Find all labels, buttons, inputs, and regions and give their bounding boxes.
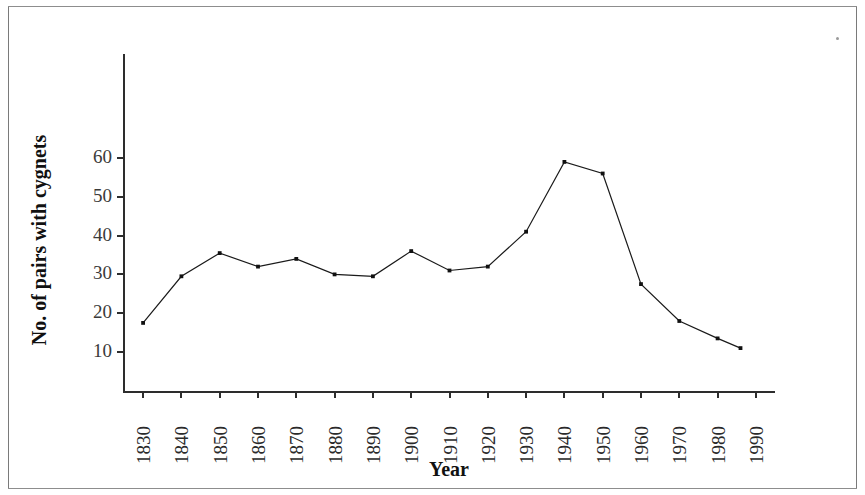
series-markers [141, 160, 742, 350]
data-point-1986 [739, 346, 743, 350]
data-point-1930 [524, 230, 528, 234]
data-point-1950 [601, 172, 605, 176]
data-point-1870 [294, 257, 298, 261]
data-point-1830 [141, 321, 145, 325]
data-point-1980 [716, 337, 720, 341]
figure-container: 102030405060 183018401850186018701880189… [0, 0, 865, 495]
data-point-1850 [218, 251, 222, 255]
data-point-1900 [409, 249, 413, 253]
data-point-1860 [256, 265, 260, 269]
data-point-1920 [486, 265, 490, 269]
y-axis-label: No. of pairs with cygnets [28, 0, 54, 120]
series-line [143, 162, 740, 348]
x-axis-label: Year [123, 458, 775, 481]
data-series-layer [0, 0, 865, 495]
data-point-1960 [639, 282, 643, 286]
data-point-1910 [448, 269, 452, 273]
data-point-1880 [333, 273, 337, 277]
data-point-1970 [677, 319, 681, 323]
data-point-1890 [371, 274, 375, 278]
plot-area: 102030405060 183018401850186018701880189… [0, 0, 865, 495]
data-point-1840 [180, 274, 184, 278]
data-point-1940 [563, 160, 567, 164]
y-axis-label-text: No. of pairs with cygnets [28, 120, 51, 360]
